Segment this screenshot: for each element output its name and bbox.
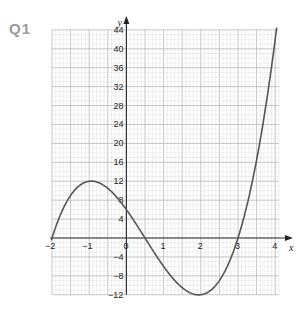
y-tick-label: 16 — [113, 157, 123, 167]
x-tick-label: 0 — [123, 241, 128, 251]
y-tick-label: 24 — [113, 119, 123, 129]
y-tick-label: 12 — [113, 176, 123, 186]
x-tick-label: 2 — [198, 241, 203, 251]
y-tick-label: 4 — [118, 214, 123, 224]
y-tick-label: −8 — [113, 271, 123, 281]
y-tick-label: 44 — [113, 25, 123, 35]
y-tick-label: 36 — [113, 63, 123, 73]
y-tick-label: 40 — [113, 44, 123, 54]
y-tick-label: −12 — [108, 290, 123, 300]
y-axis-arrow-icon — [123, 16, 129, 24]
x-tick-label: −1 — [82, 241, 92, 251]
x-tick-label: −2 — [45, 241, 55, 251]
y-tick-label: 28 — [113, 101, 123, 111]
y-tick-label: 20 — [113, 138, 123, 148]
x-axis-arrow-icon — [285, 235, 293, 241]
y-tick-label: −4 — [113, 252, 123, 262]
cubic-graph: xy−2−101234−12−8−448121620242832364044 — [0, 0, 305, 312]
grid — [52, 30, 279, 295]
x-tick-label: 4 — [272, 241, 277, 251]
x-tick-label: 1 — [161, 241, 166, 251]
y-tick-label: 32 — [113, 82, 123, 92]
x-axis-label: x — [288, 242, 294, 253]
